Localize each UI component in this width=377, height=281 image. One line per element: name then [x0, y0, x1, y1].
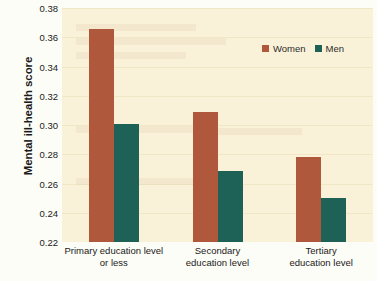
x-tick-label: Tertiaryeducation level	[269, 245, 373, 268]
chart-container: Mental ill-health score 0.380.360.340.32…	[0, 0, 377, 281]
y-tick-label: 0.36	[24, 32, 58, 43]
bar-group	[193, 8, 243, 242]
legend-swatch-icon	[262, 45, 269, 52]
y-tick-label: 0.34	[24, 61, 58, 72]
legend-entry-men[interactable]: Men	[315, 43, 344, 54]
bar-women-1[interactable]	[89, 29, 114, 242]
y-tick-label: 0.32	[24, 90, 58, 101]
x-tick-label-line: Tertiary	[269, 245, 373, 257]
y-tick-label: 0.38	[24, 3, 58, 14]
x-tick-label-line: education level	[269, 257, 373, 269]
y-tick-label: 0.30	[24, 120, 58, 131]
x-tick-label-line: Primary education level	[62, 245, 166, 257]
legend-label: Women	[273, 43, 306, 54]
legend-label: Men	[326, 43, 344, 54]
chart-legend: WomenMen	[262, 43, 344, 54]
x-tick-label-line: or less	[62, 257, 166, 269]
y-tick-label: 0.26	[24, 178, 58, 189]
legend-entry-women[interactable]: Women	[262, 43, 306, 54]
x-tick-label: Primary education levelor less	[62, 245, 166, 268]
legend-swatch-icon	[315, 45, 322, 52]
y-tick-label: 0.22	[24, 237, 58, 248]
x-axis-tick-labels: Primary education levelor lessSecondarye…	[62, 245, 373, 281]
bar-women-3[interactable]	[296, 157, 321, 242]
y-tick-label: 0.24	[24, 207, 58, 218]
x-tick-label-line: Secondary	[166, 245, 270, 257]
bar-men-2[interactable]	[218, 171, 243, 242]
y-tick-label: 0.28	[24, 149, 58, 160]
bar-group	[89, 8, 139, 242]
bar-men-3[interactable]	[321, 198, 346, 242]
bar-women-2[interactable]	[193, 112, 218, 242]
x-tick-label: Secondaryeducation level	[166, 245, 270, 268]
y-axis-tick-labels: 0.380.360.340.320.300.280.260.240.22	[24, 0, 58, 281]
x-tick-label-line: education level	[166, 257, 270, 269]
bar-men-1[interactable]	[114, 124, 139, 242]
